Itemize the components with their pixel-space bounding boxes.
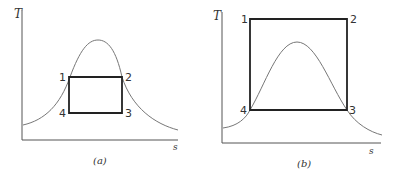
point-label-4-a: 4 (59, 107, 66, 120)
point-label-1-b: 1 (241, 13, 248, 26)
cycle-rectangle-b (250, 19, 347, 110)
point-label-1-a: 1 (59, 71, 66, 84)
x-axis-label-a: s (173, 142, 178, 152)
panel-b: T s 1 2 3 4 (b) (213, 9, 382, 169)
point-label-2-b: 2 (350, 13, 357, 26)
x-axis-label-b: s (369, 146, 374, 156)
y-axis-label-a: T (14, 7, 23, 21)
point-label-4-b: 4 (240, 104, 247, 117)
cycle-rectangle-a (69, 77, 122, 113)
panel-a: T s 1 2 3 4 (a) (14, 7, 178, 166)
saturation-dome-b (223, 42, 382, 135)
point-label-3-b: 3 (349, 104, 356, 117)
saturation-dome-a (23, 40, 178, 130)
figure-canvas: T s 1 2 3 4 (a) T s 1 2 3 4 (b) (0, 0, 393, 177)
point-label-2-a: 2 (125, 71, 132, 84)
point-label-3-a: 3 (125, 107, 132, 120)
caption-a: (a) (93, 155, 107, 166)
y-axis-label-b: T (213, 9, 222, 23)
caption-b: (b) (297, 158, 311, 169)
